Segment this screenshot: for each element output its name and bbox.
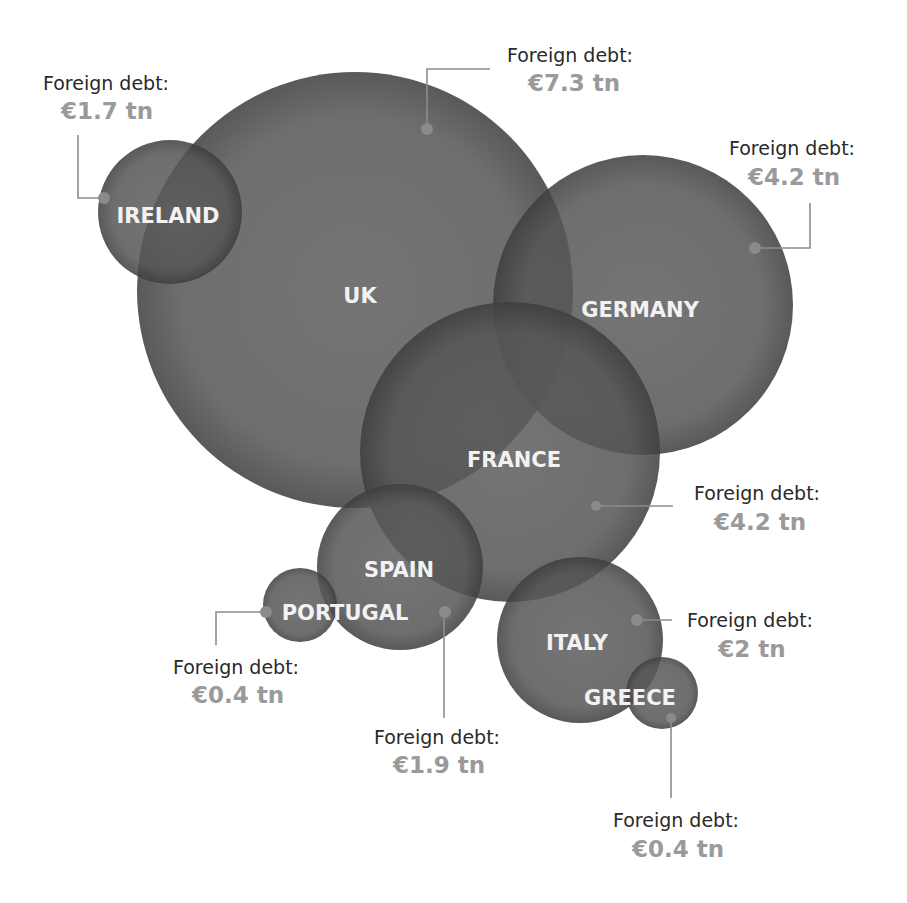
debt-label-spain: Foreign debt: — [374, 726, 500, 748]
annotation-france: Foreign debt: €4.2 tn — [694, 482, 820, 535]
debt-label-italy: Foreign debt: — [687, 609, 813, 631]
debt-label-uk: Foreign debt: — [507, 44, 633, 66]
country-label-germany: GERMANY — [581, 298, 699, 322]
anchor-dot-portugal — [260, 606, 272, 618]
debt-value-germany: €4.2 tn — [747, 164, 840, 190]
debt-value-italy: €2 tn — [717, 636, 785, 662]
annotation-greece: Foreign debt: €0.4 tn — [613, 809, 739, 862]
debt-value-greece: €0.4 tn — [631, 836, 724, 862]
country-label-spain: SPAIN — [364, 558, 434, 582]
bubble-chart: IRELAND UK GERMANY FRANCE SPAIN PORTUGAL… — [0, 0, 907, 903]
country-label-portugal: PORTUGAL — [282, 601, 409, 625]
debt-label-ireland: Foreign debt: — [43, 72, 169, 94]
anchor-dot-spain — [439, 606, 451, 618]
country-label-uk: UK — [343, 284, 377, 308]
chart-canvas: IRELAND UK GERMANY FRANCE SPAIN PORTUGAL… — [0, 0, 907, 903]
anchor-dot-ireland — [98, 192, 110, 204]
debt-label-france: Foreign debt: — [694, 482, 820, 504]
leader-line-portugal — [216, 612, 262, 645]
annotation-spain: Foreign debt: €1.9 tn — [374, 726, 500, 778]
debt-value-france: €4.2 tn — [713, 509, 806, 535]
annotation-uk: Foreign debt: €7.3 tn — [507, 44, 633, 96]
anchor-dot-uk — [421, 123, 433, 135]
annotation-ireland: Foreign debt: €1.7 tn — [43, 72, 169, 124]
annotation-germany: Foreign debt: €4.2 tn — [729, 137, 855, 190]
debt-value-spain: €1.9 tn — [392, 752, 485, 778]
country-label-italy: ITALY — [546, 631, 609, 655]
debt-label-germany: Foreign debt: — [729, 137, 855, 159]
debt-value-portugal: €0.4 tn — [191, 682, 284, 708]
country-label-ireland: IRELAND — [117, 204, 220, 228]
debt-label-portugal: Foreign debt: — [173, 656, 299, 678]
annotation-italy: Foreign debt: €2 tn — [687, 609, 813, 662]
country-label-greece: GREECE — [584, 686, 676, 710]
anchor-dot-germany — [749, 242, 761, 254]
annotation-portugal: Foreign debt: €0.4 tn — [173, 656, 299, 708]
debt-label-greece: Foreign debt: — [613, 809, 739, 831]
anchor-dot-italy — [631, 614, 643, 626]
anchor-dot-france — [591, 501, 601, 511]
country-label-france: FRANCE — [467, 448, 561, 472]
leader-line-ireland — [78, 135, 103, 198]
anchor-dot-greece — [666, 713, 676, 723]
debt-value-ireland: €1.7 tn — [60, 98, 153, 124]
debt-value-uk: €7.3 tn — [527, 70, 620, 96]
